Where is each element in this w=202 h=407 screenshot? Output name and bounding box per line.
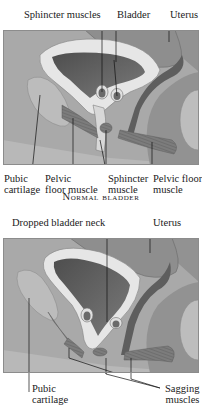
label-sagging-muscles: Sagging muscles [165,383,199,405]
anatomy-illustrations [0,0,202,407]
dropped-bladder-illustration [3,226,202,392]
normal-bladder-illustration [3,16,202,172]
label-pubic-cartilage-2: Pubic cartilage [32,383,68,405]
label-uterus-bottom: Uterus [153,217,181,228]
caption-normal-bladder: Normal bladder [0,191,202,202]
label-dropped-bladder-neck: Dropped bladder neck [12,217,105,228]
